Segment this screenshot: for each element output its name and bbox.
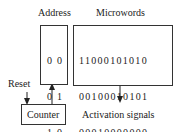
microwords-label: Microwords (96, 8, 145, 18)
address-row: 0 1 (47, 91, 63, 103)
microword-row: 00100010101 (79, 91, 148, 103)
address-table: 0 0 0 1 1 0 1 1 (40, 25, 68, 85)
activation-signals-label: Activation signals (82, 110, 155, 120)
microword-row: 11000101010 (79, 55, 148, 67)
address-label: Address (38, 8, 71, 18)
counter-box: Counter (21, 104, 66, 125)
address-row: 1 0 (47, 127, 63, 132)
address-row: 0 0 (47, 55, 63, 67)
microword-table: 11000101010 00100010101 00010000000 0000… (73, 25, 173, 86)
counter-label: Counter (27, 110, 59, 120)
microword-row: 00010000000 (79, 127, 148, 132)
reset-label: Reset (8, 79, 30, 89)
